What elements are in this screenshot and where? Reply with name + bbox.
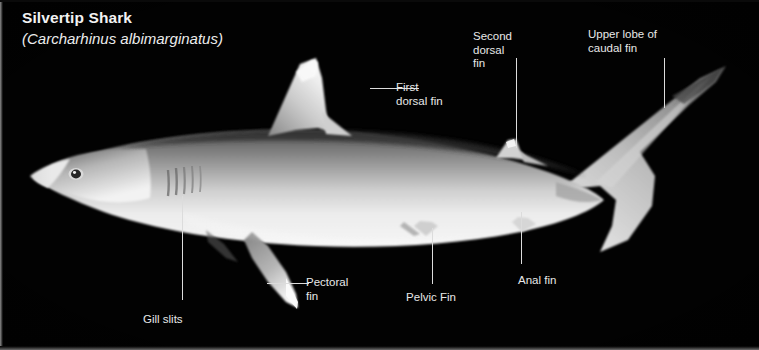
scientific-name-title: (Carcharhinus albimarginatus) — [22, 28, 223, 49]
leader-line-pelvic-fin — [432, 228, 433, 284]
label-second-dorsal-fin-line3: fin — [473, 57, 485, 69]
label-anal-fin-line1: Anal fin — [518, 274, 556, 286]
label-pectoral-fin-line2: fin — [306, 290, 318, 302]
label-upper-lobe-caudal-fin-line2: caudal fin — [588, 42, 637, 54]
label-first-dorsal-fin-line1: First — [396, 81, 418, 93]
leader-line-upper-lobe-caudal-fin — [664, 58, 665, 108]
leader-line-pectoral-fin — [267, 283, 309, 284]
label-first-dorsal-fin: Firstdorsal fin — [396, 81, 443, 108]
label-pelvic-fin-line1: Pelvic Fin — [406, 291, 456, 303]
figure-canvas: Silvertip Shark (Carcharhinus albimargin… — [0, 0, 759, 350]
frame-edge-top — [0, 0, 759, 2]
title-block: Silvertip Shark (Carcharhinus albimargin… — [22, 8, 223, 49]
label-pectoral-fin: Pectoralfin — [306, 276, 348, 303]
label-second-dorsal-fin-line2: dorsal — [473, 44, 504, 56]
label-second-dorsal-fin: Seconddorsalfin — [473, 30, 512, 71]
label-first-dorsal-fin-line2: dorsal fin — [396, 95, 443, 107]
frame-edge-bottom — [0, 346, 759, 350]
label-gill-slits-line1: Gill slits — [143, 313, 183, 325]
label-gill-slits: Gill slits — [143, 313, 183, 327]
leader-line-anal-fin — [521, 212, 522, 264]
label-pectoral-fin-line1: Pectoral — [306, 276, 348, 288]
leader-line-second-dorsal-fin — [516, 58, 517, 148]
label-second-dorsal-fin-line1: Second — [473, 30, 512, 42]
common-name-title: Silvertip Shark — [22, 8, 223, 28]
frame-edge-left — [0, 0, 3, 350]
leader-line-gill-slits — [182, 196, 183, 300]
label-pelvic-fin: Pelvic Fin — [406, 291, 456, 305]
label-upper-lobe-caudal-fin-line1: Upper lobe of — [588, 28, 657, 40]
label-anal-fin: Anal fin — [518, 274, 556, 288]
label-upper-lobe-caudal-fin: Upper lobe ofcaudal fin — [588, 28, 657, 55]
